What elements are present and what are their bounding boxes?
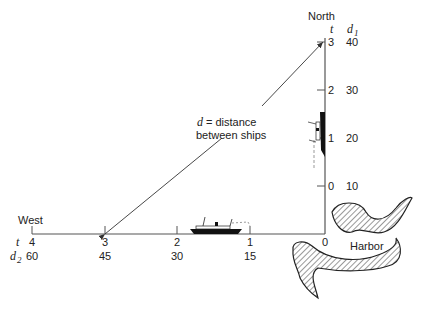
ships-diagram: West North Harbor d = distance between s… [0,0,424,310]
west-label: West [18,214,43,226]
distance-var: d [197,115,204,129]
west-d-header: d [10,249,17,263]
north-tick-t: 2 [328,84,334,96]
west-tick-t: 2 [174,236,180,248]
west-tick-t: 1 [247,236,253,248]
ship-west-icon [190,217,250,234]
west-t-header: t [16,235,20,249]
west-tick-d: 60 [26,250,38,262]
north-tick-d: 10 [346,180,358,192]
distance-label-line2: between ships [196,129,267,141]
west-tick-d: 30 [171,250,183,262]
north-tick-d: 30 [346,84,358,96]
north-tick-t: 0 [328,180,334,192]
west-tick-t: 0 [322,236,328,248]
distance-arrow [262,42,323,106]
north-tick-d: 20 [346,132,358,144]
north-t-header: t [330,22,334,36]
north-tick-t: 3 [328,36,334,48]
west-tick-t: 4 [29,236,35,248]
west-d-sub: 2 [17,255,22,265]
north-tick-t: 1 [328,132,334,144]
distance-label-line1: = distance [206,116,256,128]
west-tick-d: 45 [99,250,111,262]
north-d-header: d [347,22,354,36]
north-tick-d: 40 [346,36,358,48]
west-tick-t: 3 [102,236,108,248]
north-label: North [308,10,335,22]
ship-north-icon [308,112,325,170]
west-tick-d: 15 [244,250,256,262]
harbor-label: Harbor [350,240,384,252]
